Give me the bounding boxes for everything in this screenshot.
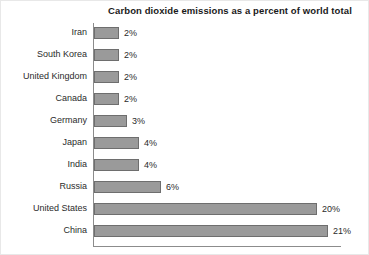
bar-chart: Carbon dioxide emissions as a percent of… [0,0,369,255]
bar-row: United Kingdom2% [1,67,369,89]
bar-value-label: 3% [132,115,145,127]
bar-value-label: 21% [333,225,351,237]
bar-row: United States20% [1,199,369,221]
category-label: Germany [50,115,87,126]
bar-row: Japan4% [1,133,369,155]
category-label: United States [33,203,87,214]
bar-value-label: 4% [144,137,157,149]
bar [94,115,127,127]
bar-row: Russia6% [1,177,369,199]
bar-value-label: 2% [124,27,137,39]
bar-value-label: 4% [144,159,157,171]
bar [94,225,328,237]
bar-value-label: 20% [322,203,340,215]
bar [94,159,139,171]
category-label: Japan [62,137,87,148]
chart-title: Carbon dioxide emissions as a percent of… [94,5,366,17]
category-label: China [63,225,87,236]
category-label: United Kingdom [23,71,87,82]
bar-value-label: 6% [166,181,179,193]
bar-value-label: 2% [124,71,137,83]
x-axis-line [93,246,341,247]
bar-row: China21% [1,221,369,243]
category-label: South Korea [37,49,87,60]
bar [94,71,119,83]
category-label: Canada [55,93,87,104]
bar-value-label: 2% [124,93,137,105]
bar [94,203,317,215]
plot-area: Iran2%South Korea2%United Kingdom2%Canad… [1,23,369,247]
bar-row: Canada2% [1,89,369,111]
bar [94,49,119,61]
bar [94,181,161,193]
bar [94,27,119,39]
bar [94,137,139,149]
category-label: Iran [71,27,87,38]
bar-row: India4% [1,155,369,177]
category-label: India [67,159,87,170]
category-label: Russia [59,181,87,192]
bar-row: Iran2% [1,23,369,45]
bar-row: Germany3% [1,111,369,133]
bar-row: South Korea2% [1,45,369,67]
bar-value-label: 2% [124,49,137,61]
bar [94,93,119,105]
